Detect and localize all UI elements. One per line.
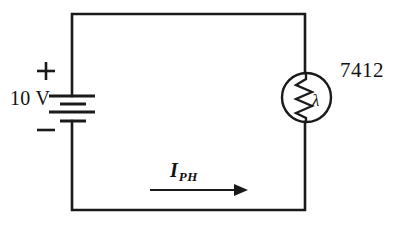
current-arrow-icon (150, 184, 248, 196)
circuit-schematic-canvas (0, 0, 397, 226)
wire-top-left-branch (72, 14, 305, 96)
device-part-number-label: 7412 (340, 60, 384, 81)
source-voltage-label: 10 V (10, 88, 50, 108)
circuit-diagram: 10 V 7412 λ IPH (0, 0, 397, 226)
current-subscript: PH (179, 169, 198, 184)
polarity-plus-icon (37, 62, 55, 80)
current-symbol: I (170, 159, 178, 181)
photocell-zigzag-icon (296, 74, 312, 122)
photocell-circle-icon (282, 73, 331, 122)
current-label: IPH (170, 160, 197, 180)
lambda-light-symbol: λ (312, 92, 319, 109)
